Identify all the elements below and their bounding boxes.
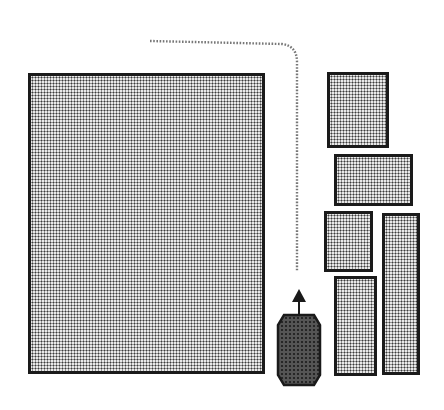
robot-icon: [278, 289, 320, 385]
diagram-overlay: [0, 0, 444, 410]
planned-path: [150, 41, 297, 272]
